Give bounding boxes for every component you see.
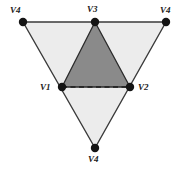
label-v1-left: V1 <box>40 83 51 92</box>
triangle-diagram-svg <box>0 0 190 171</box>
vertex-dot-v4-top-right <box>162 18 170 26</box>
label-v4-bottom: V4 <box>88 155 99 164</box>
vertex-dot-v1-left <box>58 83 66 91</box>
label-v4-top-right: V4 <box>160 6 171 15</box>
vertex-dot-v4-top-left <box>19 18 27 26</box>
label-v2-right: V2 <box>138 83 149 92</box>
vertex-dot-v4-bottom <box>91 144 99 152</box>
label-v4-top-left: V4 <box>10 6 21 15</box>
figure-container: V4 V3 V4 V1 V2 V4 <box>0 0 190 171</box>
label-v3-top: V3 <box>87 5 98 14</box>
vertex-dot-v3-top <box>91 18 99 26</box>
vertex-dot-v2-right <box>126 83 134 91</box>
